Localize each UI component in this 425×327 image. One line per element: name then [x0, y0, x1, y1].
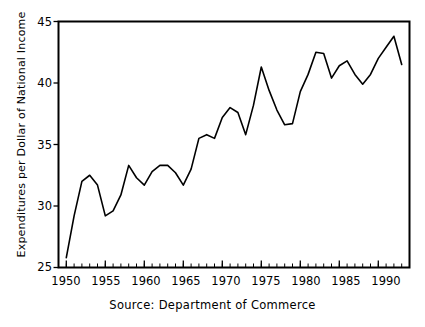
plot-area — [0, 0, 425, 327]
plot-frame — [59, 22, 410, 268]
chart-figure: Expenditures per Dollar of National Inco… — [0, 0, 425, 327]
